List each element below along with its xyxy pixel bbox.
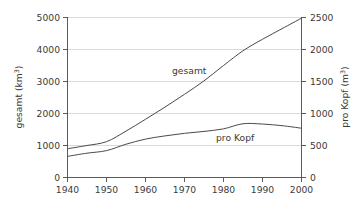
series-group <box>68 18 302 156</box>
y-axis-title-tail: ) <box>13 66 24 70</box>
y-axis-left-ticks <box>63 18 68 178</box>
x-tick-label: 1950 <box>95 184 119 195</box>
series-line-gesamt <box>68 18 302 149</box>
x-axis-ticks <box>68 178 302 183</box>
y-axis-right-labels: 2500 2000 1500 1000 500 0 <box>310 12 334 183</box>
y-axis-left-labels: 5000 4000 3000 2000 1000 0 <box>37 12 61 183</box>
x-tick-label: 1940 <box>56 184 80 195</box>
chart-container: 5000 4000 3000 2000 1000 0 2500 2000 150… <box>0 0 358 209</box>
annotation-gesamt: gesamt <box>172 65 207 76</box>
y2-axis-title-text: pro Kopf (m <box>339 74 350 128</box>
y-axis-right-ticks <box>302 18 307 178</box>
y-axis-title-text: gesamt (km <box>13 73 24 128</box>
series-annotations: gesamt pro Kopf <box>172 65 255 143</box>
y-tick-label: 5000 <box>37 12 61 23</box>
y-tick-label: 4000 <box>37 44 61 55</box>
svg-text:pro Kopf (m3): pro Kopf (m3) <box>339 66 350 127</box>
y2-axis-title-tail: ) <box>339 66 350 70</box>
y2-tick-label: 2000 <box>310 44 334 55</box>
y-tick-label: 2000 <box>37 108 61 119</box>
y2-tick-label: 1500 <box>310 76 334 87</box>
y-axis-right-title: pro Kopf (m3) <box>339 66 350 127</box>
x-tick-label: 1960 <box>134 184 158 195</box>
x-tick-label: 1970 <box>173 184 197 195</box>
y2-tick-label: 2500 <box>310 12 334 23</box>
y2-tick-label: 0 <box>310 172 316 183</box>
y2-tick-label: 1000 <box>310 108 334 119</box>
x-tick-label: 1990 <box>251 184 275 195</box>
y-tick-label: 1000 <box>37 140 61 151</box>
axes <box>67 17 302 178</box>
x-tick-label: 1980 <box>212 184 236 195</box>
x-tick-label: 2000 <box>290 184 314 195</box>
line-chart: 5000 4000 3000 2000 1000 0 2500 2000 150… <box>0 0 358 209</box>
series-line-pro-kopf <box>68 123 302 156</box>
y-tick-label: 3000 <box>37 76 61 87</box>
y2-tick-label: 500 <box>310 140 328 151</box>
svg-text:gesamt (km3): gesamt (km3) <box>13 66 24 129</box>
y-axis-left-title: gesamt (km3) <box>13 66 24 129</box>
annotation-pro-kopf: pro Kopf <box>216 132 255 143</box>
y-tick-label: 0 <box>54 172 60 183</box>
x-axis-labels: 1940 1950 1960 1970 1980 1990 2000 <box>56 184 314 195</box>
